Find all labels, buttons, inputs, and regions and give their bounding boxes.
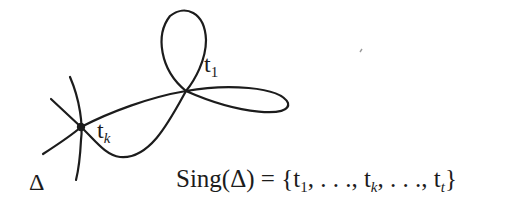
formula-item-tk-base: t: [364, 165, 371, 192]
formula-item-tk-sub: k: [371, 179, 378, 195]
label-t1: t1: [204, 52, 218, 76]
stray-mark: [360, 49, 362, 52]
formula-item-t1-sub: 1: [300, 179, 308, 195]
formula-close-brace: }: [445, 165, 457, 192]
formula-equals: =: [261, 165, 275, 192]
label-tk-base: t: [97, 117, 104, 143]
curve-right-lobe: [186, 87, 288, 112]
label-t1-base: t: [204, 51, 211, 77]
formula-lhs: Sing(Δ): [176, 165, 255, 192]
node-tk-dot: [77, 123, 85, 131]
curve-branch-main: [43, 91, 186, 154]
label-delta: Δ: [29, 170, 44, 194]
formula-item-tt-base: t: [434, 165, 441, 192]
singular-set-formula: Sing(Δ) = {t1, . . ., tk, . . ., tt}: [176, 166, 457, 191]
formula-open-brace: {: [281, 165, 293, 192]
formula-sep: ,: [308, 165, 321, 192]
label-t1-sub: 1: [211, 64, 219, 80]
formula-ellipsis-2: . . .: [390, 165, 421, 192]
line-through-tk-1: [51, 99, 81, 127]
formula-item-tt-sub: t: [441, 179, 445, 195]
formula-ellipsis-1: . . .: [320, 165, 351, 192]
formula-sep: ,: [351, 165, 364, 192]
formula-sep: ,: [378, 165, 391, 192]
label-tk-sub: k: [104, 130, 111, 146]
curve-upper-loop: [162, 11, 206, 91]
formula-sep: ,: [421, 165, 434, 192]
label-tk: tk: [97, 118, 110, 142]
